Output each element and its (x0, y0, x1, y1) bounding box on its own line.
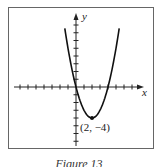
vertex-point (90, 116, 94, 120)
x-axis-label: x (141, 86, 147, 98)
vertex-label: (2, −4) (80, 121, 110, 134)
figure-graph: y x (2, −4) (0, 0, 158, 167)
figure-caption: Figure 13 (0, 157, 158, 167)
y-axis-arrow-icon (74, 13, 79, 20)
x-axis (14, 85, 144, 90)
y-axis-label: y (81, 10, 87, 22)
parabola-curve (65, 28, 119, 118)
